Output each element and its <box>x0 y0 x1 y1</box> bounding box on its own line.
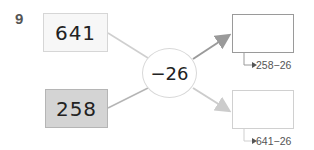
answer-hint-1: 258−26 <box>256 59 291 71</box>
input-box-258: 258 <box>45 89 108 128</box>
input-box-641: 641 <box>43 13 108 52</box>
problem-number: 9 <box>15 10 23 27</box>
answer-box-1[interactable] <box>232 14 294 53</box>
answer-hint-2: 641−26 <box>256 135 291 147</box>
operation-oval: −26 <box>142 48 197 98</box>
answer-box-2[interactable] <box>232 90 294 129</box>
input-value: 641 <box>55 21 96 45</box>
input-value: 258 <box>56 97 97 121</box>
operation-label: −26 <box>151 63 189 84</box>
